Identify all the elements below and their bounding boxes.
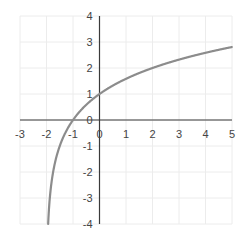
y-tick-label: 3 (86, 36, 92, 48)
x-tick-label: 4 (202, 128, 208, 140)
y-tick-label: -4 (83, 218, 93, 230)
function-plot: -3-2-1012345 43210-1-2-3-4 (0, 0, 245, 235)
x-tick-label: 1 (123, 128, 129, 140)
x-tick-label: -3 (15, 128, 25, 140)
x-tick-label: 2 (149, 128, 155, 140)
x-tick-label: 3 (176, 128, 182, 140)
y-tick-label: -3 (83, 192, 93, 204)
y-tick-label: -2 (83, 166, 93, 178)
y-tick-label: 2 (86, 62, 92, 74)
y-tick-label: -1 (83, 140, 93, 152)
x-tick-labels: -3-2-1012345 (15, 128, 235, 140)
y-tick-label: 4 (86, 10, 92, 22)
y-tick-label: 0 (86, 114, 92, 126)
x-tick-label: 0 (96, 128, 102, 140)
x-tick-label: -2 (42, 128, 52, 140)
y-tick-label: 1 (86, 88, 92, 100)
x-tick-label: 5 (229, 128, 235, 140)
x-tick-label: -1 (68, 128, 78, 140)
